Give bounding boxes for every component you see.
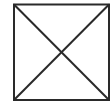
crossed-square-figure — [0, 0, 112, 107]
